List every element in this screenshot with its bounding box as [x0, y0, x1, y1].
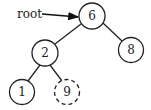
root-label: root — [17, 7, 42, 21]
edge-6-2 — [55, 24, 81, 44]
svg-text:9: 9 — [63, 85, 71, 99]
svg-text:1: 1 — [18, 85, 26, 99]
tree-node-2: 2 — [32, 40, 58, 66]
root-arrow — [42, 14, 78, 17]
svg-text:6: 6 — [88, 9, 96, 23]
svg-text:8: 8 — [127, 43, 135, 57]
tree-node-1: 1 — [10, 80, 35, 105]
tree-node-6: 6 — [79, 3, 105, 29]
tree-node-9-dashed: 9 — [55, 80, 80, 105]
binary-tree-diagram: root 6 2 8 1 9 — [0, 0, 151, 110]
tree-node-8: 8 — [119, 38, 144, 63]
svg-text:2: 2 — [41, 46, 49, 60]
edge-2-1 — [28, 65, 40, 81]
edge-2-9 — [50, 65, 62, 81]
edge-6-8 — [103, 23, 122, 41]
